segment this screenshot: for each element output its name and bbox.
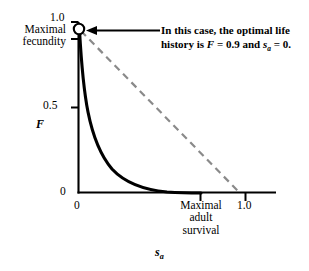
callout-line2-suffix: = 0.	[271, 38, 291, 50]
callout-line-2: history is F = 0.9 and sa = 0.	[161, 38, 291, 54]
x-tick-label-1.0: 1.0	[237, 199, 251, 211]
callout-line2-prefix: history is	[161, 38, 207, 50]
y-axis-title: F	[36, 118, 44, 131]
y-tick-label-0: 0	[60, 185, 66, 197]
figure-container: 1.0 0.5 0 Maximal fecundity F 0 Maximal …	[0, 0, 309, 271]
y-tick-label-maximal-fecundity: Maximal fecundity	[0, 23, 66, 48]
tradeoff-curve	[80, 30, 202, 193]
fitness-isocline-dashed-line	[81, 31, 238, 191]
maximal-adult-survival-line2: adult	[163, 211, 239, 223]
callout-line2-middle: = 0.9 and	[214, 38, 263, 50]
x-tick-label-0: 0	[74, 199, 80, 211]
y-tick-label-1.0: 1.0	[50, 11, 64, 23]
x-tick-label-maximal-adult-survival: Maximal adult survival	[163, 199, 239, 236]
maximal-fecundity-line2: fecundity	[0, 35, 66, 47]
optimum-point-marker	[74, 24, 84, 34]
x-axis-title: sa	[155, 246, 164, 262]
callout-line-1: In this case, the optimal life	[161, 24, 291, 38]
maximal-adult-survival-line3: survival	[163, 224, 239, 236]
maximal-adult-survival-line1: Maximal	[163, 199, 239, 211]
y-tick-label-0.5: 0.5	[43, 99, 57, 111]
optimum-callout-text: In this case, the optimal life history i…	[161, 24, 291, 53]
callout-arrowhead-icon	[86, 26, 97, 35]
x-axis-title-subscript: a	[160, 252, 164, 261]
maximal-fecundity-line1: Maximal	[0, 23, 66, 35]
